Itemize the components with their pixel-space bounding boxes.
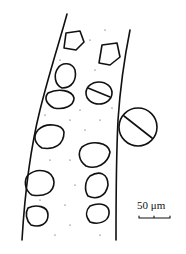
cell — [25, 171, 54, 196]
scale-bar — [139, 216, 170, 218]
filament-right-edge — [116, 30, 130, 240]
scale-bar-label: 50 μm — [137, 199, 165, 211]
illustration — [0, 0, 186, 254]
cell — [79, 143, 110, 167]
cell — [55, 64, 75, 88]
cell — [86, 173, 108, 197]
cell — [35, 125, 64, 149]
cell — [26, 206, 48, 226]
cell — [99, 43, 120, 65]
cell — [87, 204, 109, 223]
cell — [46, 90, 74, 108]
cell — [64, 31, 84, 50]
